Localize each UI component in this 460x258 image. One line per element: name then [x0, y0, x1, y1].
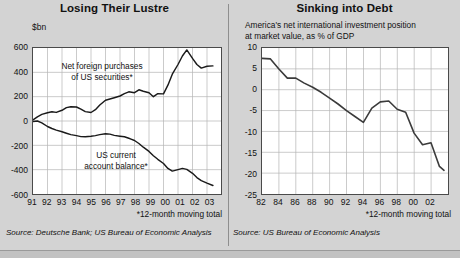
x-tick-left-00: 00: [160, 197, 169, 207]
footnote-right: *12-month moving total: [281, 209, 451, 219]
y-tick-right-m15: -15: [227, 148, 257, 158]
source-left: Source: Deutsche Bank; US Bureau of Econ…: [6, 228, 212, 237]
y-tick-left-600: 600: [0, 42, 28, 52]
chart-panel-left: Losing Their Lustre $bn 600 400 200 0 -2…: [0, 0, 229, 250]
y-tick-left-200: 200: [0, 91, 28, 101]
x-tick-left-92: 92: [42, 197, 51, 207]
annotation-net-foreign-purchases: Net foreign purchases of US securities*: [42, 61, 162, 82]
plot-area-right: [261, 47, 449, 195]
x-tick-left-95: 95: [86, 197, 95, 207]
x-tick-right-00: 00: [408, 197, 417, 207]
x-tick-left-03: 03: [205, 197, 214, 207]
x-tick-left-97: 97: [116, 197, 125, 207]
series-net-intl-investment-position: [262, 58, 444, 170]
x-tick-right-82: 82: [256, 197, 265, 207]
x-tick-right-84: 84: [273, 197, 282, 207]
x-tick-right-02: 02: [425, 197, 434, 207]
source-right: Source: US Bureau of Economic Analysis: [233, 228, 380, 237]
y-tick-left-400: 400: [0, 67, 28, 77]
x-tick-left-91: 91: [27, 197, 36, 207]
footnote-left: *12-month moving total: [52, 209, 222, 219]
y-tick-right-m5: -5: [227, 105, 257, 115]
x-tick-left-94: 94: [72, 197, 81, 207]
x-tick-left-93: 93: [57, 197, 66, 207]
x-tick-right-86: 86: [290, 197, 299, 207]
y-tick-right-0: 0: [227, 84, 257, 94]
subtitle-right: America's net international investment p…: [245, 20, 455, 41]
y-tick-right-m20: -20: [227, 169, 257, 179]
page-title-right: Sinking into Debt: [229, 2, 460, 14]
x-tick-left-96: 96: [101, 197, 110, 207]
y-tick-right-m10: -10: [227, 127, 257, 137]
y-tick-right-m25: -25: [227, 190, 257, 200]
x-tick-right-92: 92: [341, 197, 350, 207]
annotation-us-current-account: US current account balance*: [62, 150, 170, 171]
y-tick-left-m600: -600: [0, 190, 28, 200]
grid-lines-right: [262, 48, 448, 194]
x-tick-left-98: 98: [131, 197, 140, 207]
x-tick-left-99: 99: [146, 197, 155, 207]
chart-panel-right: Sinking into Debt America's net internat…: [229, 0, 460, 250]
y-tick-right-5: 5: [227, 63, 257, 73]
y-tick-left-0: 0: [0, 116, 28, 126]
y-tick-right-10: 10: [227, 42, 257, 52]
y-tick-left-m400: -400: [0, 165, 28, 175]
x-tick-left-02: 02: [190, 197, 199, 207]
y-axis-unit-left: $bn: [32, 22, 46, 32]
x-tick-left-01: 01: [175, 197, 184, 207]
x-tick-right-94: 94: [358, 197, 367, 207]
x-tick-right-90: 90: [324, 197, 333, 207]
y-tick-left-m200: -200: [0, 141, 28, 151]
bottom-bar: [0, 250, 460, 258]
x-tick-right-88: 88: [307, 197, 316, 207]
page-title-left: Losing Their Lustre: [0, 2, 229, 14]
line-chart-right-svg: [262, 48, 448, 194]
x-tick-right-96: 96: [375, 197, 384, 207]
x-tick-right-98: 98: [392, 197, 401, 207]
